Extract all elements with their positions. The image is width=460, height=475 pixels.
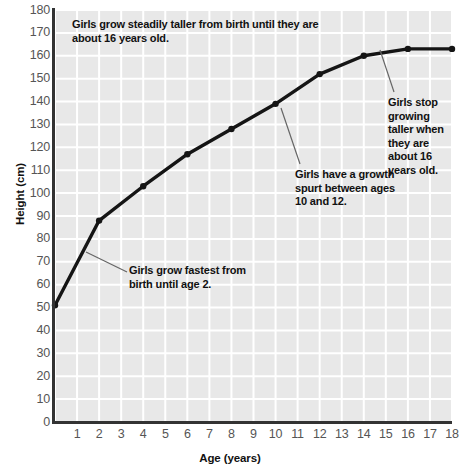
x-tick-18: 18 [439,427,460,441]
annotation-top-note: Girls grow steadily taller from birth un… [72,18,322,45]
annotation-stop-growing-note: Girls stop growing taller when they are … [388,96,458,177]
annotation-leader-lines [0,0,460,475]
x-axis-line [52,421,452,424]
y-axis-line [52,8,55,424]
x-axis-title: Age (years) [0,452,460,464]
growth-chart: Height (cm) 0102030405060708090100110120… [0,0,460,475]
annotation-birth-to-two-note: Girls grow fastest from birth until age … [129,264,259,291]
x-axis-tick-labels: 123456789101112131415161718 [0,427,460,447]
